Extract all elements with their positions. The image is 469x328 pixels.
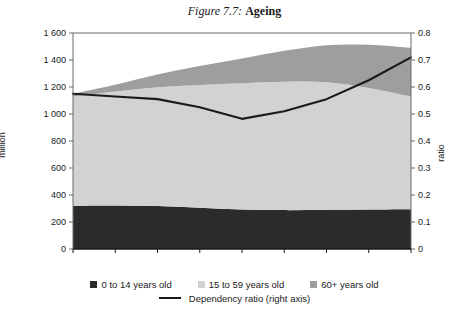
y-right-tick: 0.2 (418, 190, 431, 200)
legend-item-dependency-ratio[interactable]: Dependency ratio (right axis) (159, 293, 310, 304)
y-left-tick: 0 (61, 244, 66, 254)
y-right-tick: 0.5 (418, 109, 431, 119)
x-tick: 2025 (359, 256, 379, 258)
legend-item-old[interactable]: 60+ years old (310, 279, 378, 290)
figure-container: Figure 7.7: Ageing 1 6000.81 4000.71 200… (0, 0, 469, 328)
y-right-tick: 0.8 (418, 28, 431, 38)
y-left-tick: 200 (51, 217, 66, 227)
y-right-tick: 0 (418, 244, 423, 254)
legend-label-old: 60+ years old (321, 279, 378, 290)
x-tick: 1995 (105, 256, 125, 258)
legend-swatch-old (310, 281, 317, 288)
y-left-tick: 1 200 (43, 82, 66, 92)
legend-swatch-young (90, 281, 97, 288)
x-tick: 2005 (190, 256, 210, 258)
chart-area: 1 6000.81 4000.71 2000.61 0000.58000.460… (0, 26, 469, 258)
ageing-stacked-area-chart: 1 6000.81 4000.71 2000.61 0000.58000.460… (0, 26, 469, 258)
legend-line-swatch-dependency-ratio (159, 297, 181, 299)
x-tick: 2015 (274, 256, 294, 258)
x-tick: 2010 (232, 256, 252, 258)
y-left-tick: 1 000 (43, 109, 66, 119)
x-tick: 2000 (147, 256, 167, 258)
plot-layers (73, 44, 411, 249)
y-left-tick: 1 400 (43, 55, 66, 65)
chart-legend: 0 to 14 years old 15 to 59 years old 60+… (0, 277, 469, 305)
page-title: Ageing (245, 4, 281, 18)
legend-label-working: 15 to 59 years old (209, 279, 285, 290)
y-left-tick: 800 (51, 136, 66, 146)
y-right-tick: 0.3 (418, 163, 431, 173)
y-right-tick: 0.6 (418, 82, 431, 92)
figure-number: Figure 7.7: (188, 4, 242, 18)
x-tick: 2030 (401, 256, 421, 258)
legend-label-young: 0 to 14 years old (101, 279, 171, 290)
y-right-tick: 0.1 (418, 217, 431, 227)
x-tick: 1990 (63, 256, 83, 258)
legend-item-working[interactable]: 15 to 59 years old (198, 279, 285, 290)
x-tick: 2020 (316, 256, 336, 258)
y-axis-right-title: ratio (436, 144, 446, 162)
legend-label-dependency-ratio: Dependency ratio (right axis) (189, 293, 310, 304)
y-axis-left-title: million (0, 132, 7, 158)
y-left-tick: 600 (51, 163, 66, 173)
legend-swatch-working (198, 281, 205, 288)
figure-caption: Figure 7.7: Ageing (0, 4, 469, 18)
y-left-tick: 400 (51, 190, 66, 200)
y-right-tick: 0.7 (418, 55, 431, 65)
legend-row-line: Dependency ratio (right axis) (0, 291, 469, 305)
y-left-tick: 1 600 (43, 28, 66, 38)
legend-row-areas: 0 to 14 years old 15 to 59 years old 60+… (0, 277, 469, 291)
legend-item-young[interactable]: 0 to 14 years old (90, 279, 171, 290)
y-right-tick: 0.4 (418, 136, 431, 146)
